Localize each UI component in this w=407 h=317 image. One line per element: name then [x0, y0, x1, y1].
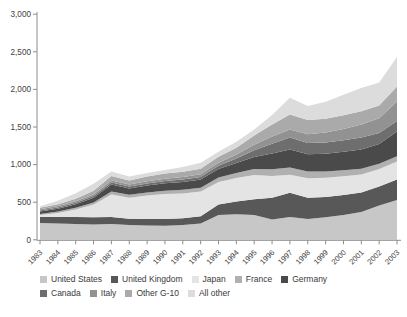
x-tick-label: 1995	[240, 248, 258, 266]
chart-figure: 05001,0001,5002,0002,5003,00019831984198…	[0, 0, 407, 317]
legend-swatch-icon	[281, 276, 288, 283]
stacked-area-chart: 05001,0001,5002,0002,5003,00019831984198…	[0, 0, 407, 270]
x-tick-label: 1997	[276, 248, 294, 266]
legend-item-other-g-10: Other G-10	[125, 287, 179, 300]
legend-label: Canada	[51, 287, 81, 300]
x-tick-label: 1986	[80, 248, 98, 266]
legend-label: United States	[51, 273, 102, 286]
x-tick-label: 1992	[187, 248, 205, 266]
legend-label: United Kingdom	[122, 273, 182, 286]
y-tick-label: 2,500	[11, 48, 32, 57]
x-tick-label: 2001	[347, 248, 365, 266]
y-tick-label: 1,500	[11, 123, 32, 132]
legend-item-united-kingdom: United Kingdom	[111, 273, 182, 286]
y-tick-label: 3,000	[11, 10, 32, 19]
legend-swatch-icon	[188, 290, 195, 297]
x-tick-label: 1996	[258, 248, 276, 266]
legend-label: Italy	[101, 287, 117, 300]
x-tick-label: 2000	[330, 248, 348, 266]
legend-item-france: France	[235, 273, 272, 286]
legend-swatch-icon	[125, 290, 132, 297]
legend-label: All other	[199, 287, 230, 300]
x-tick-label: 1985	[62, 248, 80, 266]
x-tick-label: 1987	[97, 248, 115, 266]
x-tick-label: 1991	[169, 248, 187, 266]
x-tick-label: 2002	[365, 248, 383, 266]
legend-item-canada: Canada	[40, 287, 81, 300]
x-tick-label: 1983	[26, 248, 44, 266]
x-tick-label: 1993	[205, 248, 223, 266]
x-tick-label: 1984	[44, 248, 62, 266]
y-tick-label: 0	[26, 236, 31, 245]
legend-label: France	[246, 273, 272, 286]
x-tick-label: 1990	[151, 248, 169, 266]
legend-swatch-icon	[235, 276, 242, 283]
legend-swatch-icon	[40, 276, 47, 283]
y-tick-label: 1,000	[11, 160, 32, 169]
y-tick-label: 2,000	[11, 85, 32, 94]
chart-legend: United StatesUnited KingdomJapanFranceGe…	[40, 273, 400, 301]
x-tick-label: 2003	[383, 248, 401, 266]
legend-swatch-icon	[90, 290, 97, 297]
x-tick-label: 1999	[312, 248, 330, 266]
legend-label: Other G-10	[136, 287, 179, 300]
legend-row-1: United StatesUnited KingdomJapanFranceGe…	[40, 273, 400, 286]
legend-item-united-states: United States	[40, 273, 102, 286]
x-tick-label: 1988	[115, 248, 133, 266]
x-tick-label: 1998	[294, 248, 312, 266]
legend-item-japan: Japan	[192, 273, 226, 286]
x-tick-label: 1994	[222, 248, 240, 266]
legend-item-italy: Italy	[90, 287, 117, 300]
legend-swatch-icon	[192, 276, 199, 283]
x-tick-label: 1989	[133, 248, 151, 266]
legend-item-all-other: All other	[188, 287, 230, 300]
legend-label: Germany	[292, 273, 327, 286]
y-tick-label: 500	[17, 198, 31, 207]
legend-swatch-icon	[40, 290, 47, 297]
legend-item-germany: Germany	[281, 273, 327, 286]
legend-swatch-icon	[111, 276, 118, 283]
legend-row-2: CanadaItalyOther G-10All other	[40, 287, 400, 300]
legend-label: Japan	[203, 273, 226, 286]
